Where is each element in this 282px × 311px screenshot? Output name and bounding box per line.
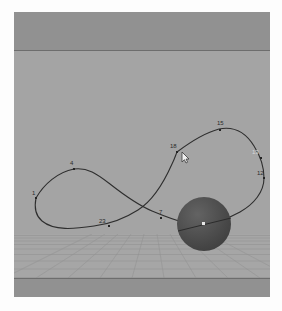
screenshot-root: 1 4 23 7 18 15 13 12	[0, 0, 282, 311]
viewport-background	[14, 51, 270, 237]
keyframe-label-13: 13	[252, 149, 258, 155]
ground-grid-svg	[14, 234, 270, 278]
keyframe-label-1: 1	[32, 190, 35, 196]
keyframe-label-7: 7	[159, 209, 162, 215]
keyframe-label-15: 15	[217, 120, 223, 126]
cursor-arrow-icon	[182, 152, 189, 163]
keyframe-label-18: 18	[170, 143, 176, 149]
viewport-top-band	[14, 12, 270, 51]
keyframe-label-4: 4	[70, 160, 73, 166]
ground-grid	[14, 234, 270, 278]
mouse-pointer	[181, 151, 190, 164]
viewport-bottom-band	[14, 278, 270, 297]
viewport-3d[interactable]: 1 4 23 7 18 15 13 12	[14, 12, 270, 297]
keyframe-label-23: 23	[99, 218, 105, 224]
keyframe-label-12: 12	[257, 170, 263, 176]
